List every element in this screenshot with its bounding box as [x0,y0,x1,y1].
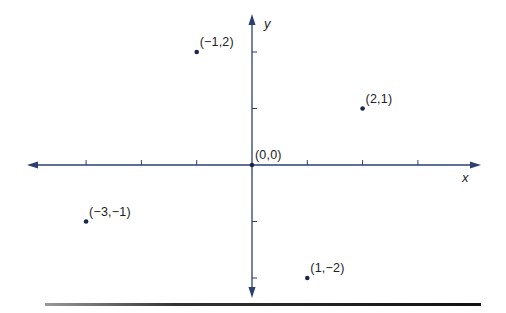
point-label: (−3,−1) [89,205,131,219]
bottom-rule [45,303,481,306]
y-axis-label: y [264,16,271,31]
axes [27,14,481,298]
x-axis-label: x [462,170,469,185]
data-point [194,50,199,55]
x-axis-left-arrow-icon [27,162,38,169]
data-point [250,163,255,168]
y-axis-up-arrow-icon [249,14,256,25]
coordinate-plane [0,0,506,313]
point-label: (0,0) [255,148,282,162]
point-label: (1,−2) [310,261,344,275]
point-label: (2,1) [366,92,393,106]
data-point [360,106,365,111]
data-point [305,276,310,281]
x-axis-right-arrow-icon [470,162,481,169]
y-axis-down-arrow-icon [249,287,256,298]
point-label: (−1,2) [200,35,234,49]
data-point [84,219,89,224]
